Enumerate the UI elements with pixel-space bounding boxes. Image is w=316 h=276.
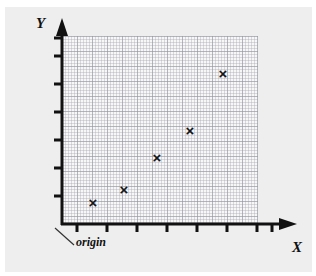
data-point-marker: × [186, 123, 195, 138]
data-point-marker: × [219, 66, 228, 81]
figure-canvas: × × × × × Y X origin [0, 0, 316, 276]
x-axis-arrowhead [279, 218, 297, 230]
x-axis-label: X [292, 240, 302, 255]
origin-annotation-label: origin [76, 236, 106, 248]
y-axis-label: Y [36, 16, 45, 31]
y-axis-arrowhead [56, 18, 68, 36]
data-point-marker: × [120, 182, 129, 197]
data-point-marker: × [89, 195, 98, 210]
data-point-marker: × [153, 150, 162, 165]
axes-overlay [0, 0, 316, 276]
origin-leader-line [55, 228, 74, 245]
